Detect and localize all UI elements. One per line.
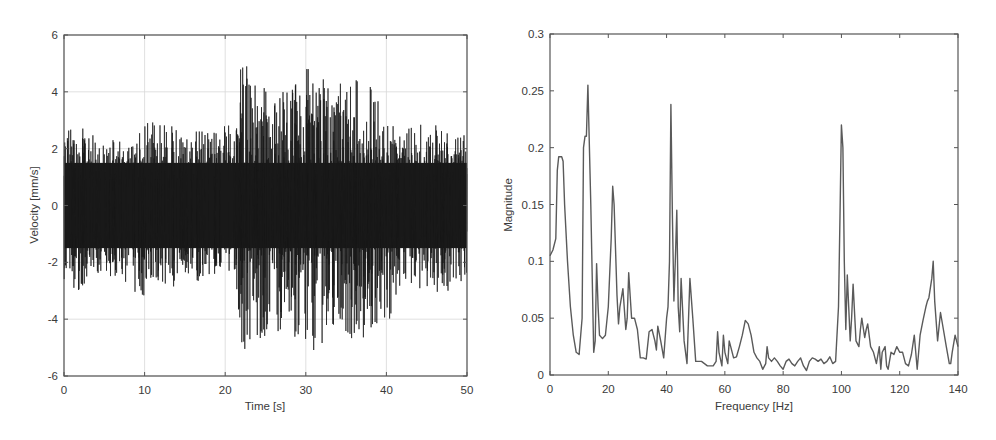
x-tick-label: 30 — [299, 384, 312, 396]
y-tick-label: 0.25 — [522, 85, 544, 97]
x-tick-label: 0 — [61, 384, 67, 396]
x-tick-label: 120 — [890, 383, 909, 395]
y-tick-label: -2 — [48, 256, 58, 268]
x-tick-label: 20 — [602, 383, 615, 395]
x-tick-label: 0 — [547, 383, 553, 395]
freq-x-axis-label: Frequency [Hz] — [715, 400, 793, 412]
y-tick-label: -4 — [48, 313, 59, 325]
y-tick-label: 0.2 — [528, 142, 544, 154]
x-tick-label: 40 — [660, 383, 673, 395]
time-domain-plot: 01020304050 -6-4-20246 Time [s] Velocity… — [28, 29, 473, 412]
frequency-domain-plot: 020406080100120140 00.050.10.150.20.250.… — [502, 28, 968, 412]
figure: 01020304050 -6-4-20246 Time [s] Velocity… — [0, 0, 996, 440]
y-tick-label: 0.1 — [528, 255, 544, 267]
freq-plot-frame — [550, 34, 958, 375]
time-x-axis-label: Time [s] — [245, 400, 285, 412]
velocity-signal — [64, 66, 467, 350]
time-y-axis-label: Velocity [mm/s] — [28, 166, 40, 243]
x-tick-label: 20 — [219, 384, 232, 396]
y-tick-label: 0 — [538, 369, 544, 381]
x-tick-label: 80 — [777, 383, 790, 395]
y-tick-label: 0.05 — [522, 312, 544, 324]
x-tick-label: 100 — [832, 383, 851, 395]
y-tick-label: 0 — [52, 200, 58, 212]
magnitude-spectrum-line — [550, 85, 958, 370]
x-tick-label: 50 — [461, 384, 474, 396]
y-tick-label: 6 — [52, 29, 58, 41]
freq-y-ticks: 00.050.10.150.20.250.3 — [522, 28, 958, 381]
x-tick-label: 10 — [138, 384, 151, 396]
freq-x-ticks: 020406080100120140 — [547, 34, 968, 395]
y-tick-label: 0.15 — [522, 199, 544, 211]
y-tick-label: -6 — [48, 370, 58, 382]
y-tick-label: 0.3 — [528, 28, 544, 40]
x-tick-label: 140 — [948, 383, 967, 395]
x-tick-label: 40 — [380, 384, 393, 396]
velocity-trace — [64, 66, 467, 350]
x-tick-label: 60 — [718, 383, 731, 395]
freq-y-axis-label: Magnitude — [502, 178, 514, 232]
y-tick-label: 4 — [52, 86, 59, 98]
y-tick-label: 2 — [52, 143, 58, 155]
